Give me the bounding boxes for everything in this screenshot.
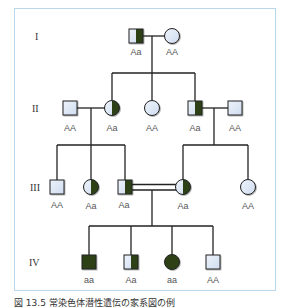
individual-III-5 [241, 180, 256, 195]
genotype-III-1: AA [51, 200, 63, 210]
generation-labels: I II III IV [29, 31, 40, 268]
individual-II-1 [63, 101, 77, 115]
individual-IV-2 [124, 255, 138, 269]
genotype-II-2: Aa [106, 123, 117, 133]
individual-III-2 [84, 180, 99, 195]
genotype-I-2: AA [166, 47, 178, 57]
genotype-II-3: AA [146, 123, 158, 133]
genotype-III-4: Aa [177, 201, 188, 211]
individual-IV-1 [82, 255, 96, 269]
individual-II-4 [188, 101, 202, 115]
genotype-III-5: AA [242, 201, 254, 211]
individual-I-2 [165, 29, 180, 44]
gen-label-1: I [35, 31, 38, 42]
individual-IV-4 [206, 255, 220, 269]
gen-label-4: IV [29, 257, 40, 268]
individual-IV-3 [165, 255, 180, 270]
genotype-IV-3: aa [167, 275, 177, 285]
individual-II-5 [228, 101, 242, 115]
genotype-I-1: Aa [130, 47, 141, 57]
figure-caption: 図 13.5 常染色体潜性遺伝の家系図の例 [14, 296, 175, 308]
gen-label-3: III [30, 182, 40, 193]
individual-II-2 [105, 101, 120, 116]
individual-I-1 [129, 29, 143, 43]
gen-label-2: II [32, 103, 39, 114]
genotype-IV-4: AA [207, 275, 219, 285]
genotype-II-4: Aa [189, 123, 200, 133]
individual-II-3 [145, 101, 160, 116]
pedigree-diagram: I II III IV [0, 0, 289, 308]
individual-III-4 [176, 180, 191, 195]
individual-III-1 [50, 180, 64, 194]
genotype-III-3: Aa [118, 200, 129, 210]
genotype-IV-2: Aa [125, 275, 136, 285]
individual-III-3 [118, 180, 132, 194]
genotype-IV-1: aa [84, 275, 94, 285]
genotype-II-5: AA [229, 123, 241, 133]
genotype-II-1: AA [64, 123, 76, 133]
pedigree-lines [57, 36, 248, 255]
genotype-III-2: Aa [85, 201, 96, 211]
